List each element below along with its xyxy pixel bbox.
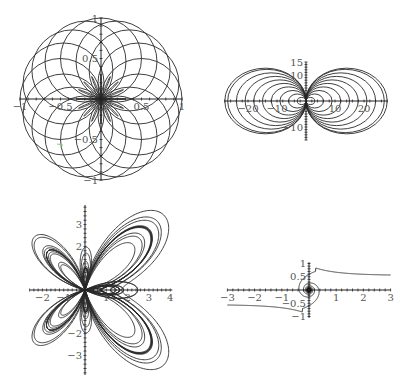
x-tick-label: 20 xyxy=(358,103,371,114)
x-tick-label: 4 xyxy=(167,292,173,303)
y-tick-label: 15 xyxy=(290,57,303,68)
y-tick-label: 3 xyxy=(76,219,82,230)
x-tick-label: 2 xyxy=(360,292,366,303)
y-tick-label: −0.5 xyxy=(282,298,306,309)
x-tick-label: 10 xyxy=(329,103,342,114)
y-tick-label: −2 xyxy=(67,328,82,339)
y-tick-label: 1 xyxy=(300,258,306,269)
y-tick-label: −1 xyxy=(291,311,306,322)
y-tick-label: 10 xyxy=(290,70,303,81)
y-tick-label: 2 xyxy=(76,241,82,252)
x-tick-label: 3 xyxy=(146,292,152,303)
y-tick-label: 1 xyxy=(92,13,98,24)
x-tick-label: −1 xyxy=(56,292,71,303)
y-tick-label: −3 xyxy=(67,350,82,361)
circle-curve xyxy=(98,74,179,155)
y-tick-label: 0.5 xyxy=(290,271,306,282)
y-tick-label: 0.5 xyxy=(82,53,98,64)
x-tick-label: 1 xyxy=(333,292,339,303)
figure-canvas: −1−0.50.5110.5−0.5−1 −20−1010201510−10 −… xyxy=(0,0,412,388)
plot-tangent-circles: −20−1010201510−10 xyxy=(225,57,387,141)
y-tick-label: −1 xyxy=(83,175,98,186)
x-tick-label: −20 xyxy=(237,103,258,114)
x-tick-label: −3 xyxy=(220,292,235,303)
x-tick-label: 2 xyxy=(124,292,130,303)
x-tick-label: −10 xyxy=(266,103,287,114)
x-tick-label: −2 xyxy=(35,292,50,303)
y-tick-label: −0.5 xyxy=(74,134,98,145)
plot-butterfly: −2−1123432−2−3 xyxy=(30,205,174,375)
x-tick-label: 0.5 xyxy=(134,101,150,112)
y-tick-label: −10 xyxy=(282,122,303,133)
x-tick-label: 3 xyxy=(387,292,393,303)
x-tick-label: −0.5 xyxy=(48,101,72,112)
spiral-branch-right xyxy=(299,268,391,297)
x-tick-label: 1 xyxy=(103,292,109,303)
x-tick-label: −1 xyxy=(13,101,28,112)
x-tick-label: −2 xyxy=(247,292,262,303)
x-tick-label: 1 xyxy=(179,101,185,112)
stray-green-mark xyxy=(57,144,63,145)
plot-circles-rose: −1−0.50.5110.5−0.5−1 xyxy=(13,13,186,186)
plot-spiral: −3−2−112310.5−0.5−1 xyxy=(220,258,394,322)
